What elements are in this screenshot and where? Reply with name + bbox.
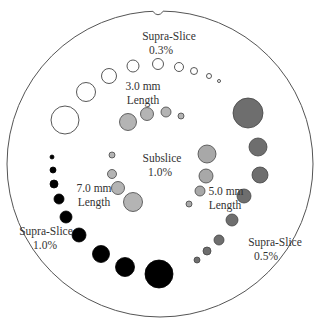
insert-circle (226, 214, 238, 226)
insert-circle (116, 258, 135, 277)
label-supra-slice-0-5-title: Supra-Slice (248, 236, 302, 249)
insert-circle (233, 98, 263, 128)
insert-circle (120, 114, 137, 131)
insert-circle (199, 169, 213, 183)
insert-circle (145, 260, 173, 288)
group-subslice-3mm (120, 107, 185, 131)
label-supra-slice-1-0-value: 1.0% (33, 239, 57, 251)
label-3mm-length-value: 3.0 mm (125, 80, 160, 92)
insert-circle (178, 113, 184, 119)
insert-circle (214, 235, 224, 245)
insert-circle (54, 194, 64, 204)
insert-circle (141, 108, 154, 121)
insert-circle (109, 152, 115, 158)
label-supra-slice-0-3-value: 0.3% (149, 44, 173, 56)
insert-circle (175, 63, 184, 72)
label-7mm-length-title: Length (78, 196, 111, 209)
insert-circle (191, 68, 198, 75)
insert-circle (195, 186, 205, 196)
label-supra-slice-1-0-title: Supra-Slice (19, 225, 73, 238)
insert-circle (50, 180, 58, 188)
label-supra-slice-0-5-value: 0.5% (254, 250, 278, 262)
phantom-diagram: Supra-Slice 0.3% 3.0 mm Length Subslice … (0, 0, 317, 326)
group-subslice-5mm (186, 145, 216, 207)
insert-circle (93, 246, 110, 263)
insert-circle (194, 257, 200, 263)
insert-circle (127, 60, 139, 72)
insert-circle (186, 201, 192, 207)
insert-circle (203, 247, 211, 255)
label-3mm-length-title: Length (127, 94, 160, 107)
insert-circle (161, 107, 171, 117)
label-subslice-value: 1.0% (148, 166, 172, 178)
label-subslice-title: Subslice (143, 152, 182, 164)
insert-circle (51, 106, 79, 134)
label-supra-slice-0-3-title: Supra-Slice (142, 30, 196, 43)
insert-circle (50, 155, 54, 159)
group-subslice-7mm (108, 152, 143, 212)
insert-circle (50, 167, 56, 173)
label-7mm-length-value: 7.0 mm (76, 182, 111, 194)
insert-circle (198, 145, 216, 163)
insert-circle (102, 69, 117, 84)
insert-circle (77, 83, 96, 102)
insert-circle (72, 228, 86, 242)
insert-circle (252, 167, 268, 183)
insert-circle (112, 182, 125, 195)
insert-circle (207, 74, 212, 79)
insert-circle (249, 138, 267, 156)
insert-circle (108, 170, 117, 179)
insert-circle (124, 193, 143, 212)
insert-circle (60, 211, 72, 223)
insert-circle (218, 80, 221, 83)
label-5mm-length-value: 5.0 mm (208, 185, 243, 197)
insert-circle (153, 59, 164, 70)
label-5mm-length-title: Length (209, 199, 242, 212)
